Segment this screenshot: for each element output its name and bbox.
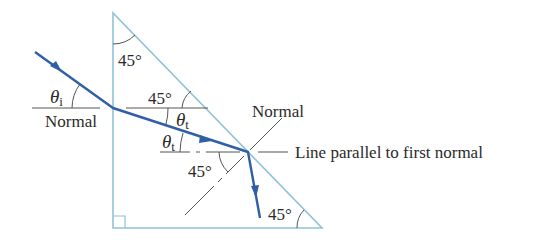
second-normal-upper xyxy=(250,118,282,150)
second-normal-lower-2 xyxy=(218,178,222,182)
lower-left-angle-arc xyxy=(219,152,228,172)
theta-t-upper-arc xyxy=(166,108,168,124)
normal-right-label: Normal xyxy=(252,102,304,121)
right-angle-marker xyxy=(113,216,125,228)
bottom-right-angle-label: 45° xyxy=(268,205,292,224)
upper-right-angle-arc xyxy=(182,91,191,108)
second-normal-lower-3 xyxy=(185,186,214,215)
top-angle-arc xyxy=(113,35,135,44)
light-ray xyxy=(35,52,260,218)
theta-t-lower-label: θt xyxy=(162,131,175,154)
bottom-right-angle-arc xyxy=(297,210,304,228)
parallel-line-label: Line parallel to first normal xyxy=(295,143,483,162)
normal-left-label: Normal xyxy=(45,112,97,131)
theta-i-label: θi xyxy=(50,86,63,109)
top-angle-label: 45° xyxy=(118,51,142,70)
theta-t-upper-label: θt xyxy=(176,109,189,132)
second-normal-lower-1 xyxy=(226,156,244,174)
theta-t-lower-arc xyxy=(180,133,183,152)
theta-i-arc xyxy=(72,84,80,108)
prism-ray-diagram: 45° 45° θi Normal θt θt Normal Line para… xyxy=(0,0,551,243)
lower-left-angle-label: 45° xyxy=(188,162,212,181)
upper-right-angle-label: 45° xyxy=(148,89,172,108)
